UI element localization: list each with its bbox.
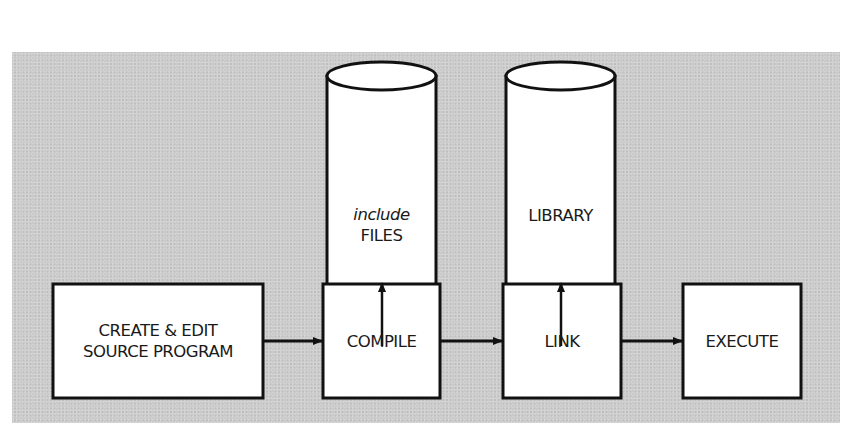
execute-label: EXECUTE [683,284,801,398]
compile-line1: COMPILE [347,331,417,352]
create-edit-line2: SOURCE PROGRAM [83,341,233,362]
library-line1: LIBRARY [528,205,592,226]
execute-line1: EXECUTE [706,331,779,352]
create-edit-label: CREATE & EDIT SOURCE PROGRAM [53,284,263,398]
library-label: LIBRARY [506,195,615,235]
include-files-label: include FILES [327,190,436,260]
compile-label: COMPILE [323,284,440,398]
link-line1: LINK [544,331,579,352]
link-label: LINK [503,284,621,398]
include-files-line2: FILES [361,225,403,246]
include-files-line1: include [353,204,409,225]
create-edit-line1: CREATE & EDIT [99,320,218,341]
